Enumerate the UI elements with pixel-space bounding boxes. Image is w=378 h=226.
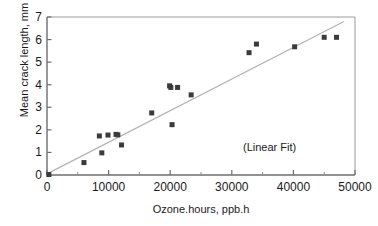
data-point [81,160,86,165]
data-point [175,85,180,90]
scatter-plot-canvas [0,0,378,226]
x-tick-label: 30000 [215,181,248,193]
x-tick-label: 0 [44,181,51,193]
linear-fit-annotation: (Linear Fit) [243,141,296,153]
data-markers [46,35,339,177]
data-point [322,35,327,40]
chart-figure: 01234567 01000020000300004000050000 Mean… [0,0,378,226]
data-point [170,122,175,127]
data-point [46,172,51,177]
data-point [97,133,102,138]
data-point [292,44,297,49]
data-point [189,92,194,97]
data-point [119,142,124,147]
y-tick-label: 1 [26,146,42,158]
data-point [334,35,339,40]
y-tick-label: 0 [26,169,42,181]
x-tick-label: 40000 [277,181,310,193]
data-point [254,42,259,47]
data-point [149,110,154,115]
axes-frame [47,17,355,175]
axis-ticks [47,17,355,175]
linear-fit-line [47,22,344,174]
x-tick-label: 10000 [92,181,125,193]
x-tick-label: 20000 [154,181,187,193]
data-point [168,85,173,90]
x-axis-title: Ozone.hours, ppb.h [47,203,355,215]
y-axis-title: Mean crack length, mm [18,0,30,140]
data-point [247,50,252,55]
data-point [115,132,120,137]
data-point [105,133,110,138]
data-point [99,150,104,155]
x-tick-label: 50000 [338,181,371,193]
